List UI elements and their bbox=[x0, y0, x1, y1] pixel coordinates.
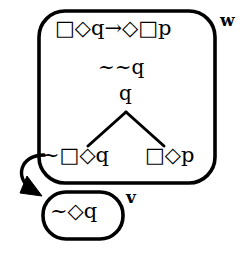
formula-accessible: ~◇q bbox=[50, 201, 97, 222]
formula-branch-right: □◇p bbox=[145, 145, 194, 166]
world-label-v: v bbox=[126, 189, 136, 206]
formula-branch-left: ~□◇q bbox=[42, 145, 109, 166]
formula-q: q bbox=[119, 83, 132, 103]
formula-double-negation: ~~q bbox=[98, 57, 144, 77]
formula-premise: □◇q→◇□p bbox=[55, 18, 171, 39]
modal-logic-diagram: □◇q→◇□p ~~q q ~□◇q □◇p ~◇q w v bbox=[0, 0, 249, 254]
world-label-w: w bbox=[220, 12, 235, 29]
